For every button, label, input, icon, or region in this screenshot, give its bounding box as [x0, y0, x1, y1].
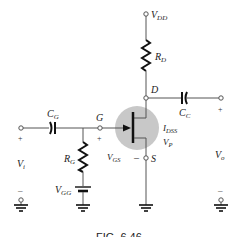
source-label: S: [151, 153, 156, 164]
vdd-terminal: [144, 12, 148, 16]
idss-label: IDSS: [162, 123, 178, 134]
vi-plus-terminal: [19, 126, 23, 130]
vgs-minus-sign: –: [133, 152, 140, 163]
ground-icon: [139, 205, 153, 211]
ground-icon: [214, 205, 228, 211]
vgs-label: VGS: [107, 152, 121, 163]
ground-icon: [76, 205, 90, 211]
vi-label: Vi: [17, 158, 25, 171]
vo-minus-sign: –: [217, 185, 223, 195]
vi-minus-sign: –: [17, 185, 23, 195]
drain-node: [144, 96, 148, 100]
cg-label: CG: [47, 108, 59, 121]
rd-label: RD: [154, 51, 166, 64]
vo-plus-terminal: [219, 96, 223, 100]
source-node: [144, 156, 148, 160]
cc-label: CC: [179, 107, 191, 120]
rg-label: RG: [63, 153, 75, 166]
vgg-label: VGG: [55, 184, 71, 197]
vo-plus-sign: +: [218, 105, 223, 114]
vp-label: VP: [163, 137, 173, 148]
figure-caption: FIG. 6.46: [96, 231, 142, 237]
circuit-diagram: VDD RD D CC + CG G + + IDSS VP RG VGS – …: [0, 0, 237, 237]
ground-icon: [14, 205, 28, 211]
gate-label: G: [96, 112, 103, 123]
vo-label: Vo: [215, 149, 225, 162]
gate-node: [98, 126, 102, 130]
cg-capacitor-plate-curved: [50, 122, 52, 134]
vdd-label: VDD: [151, 9, 167, 22]
vgs-plus-sign: +: [97, 134, 102, 143]
rd-resistor: [142, 40, 150, 71]
rg-resistor: [79, 142, 87, 172]
vi-plus-sign: +: [18, 134, 23, 143]
vi-minus-terminal: [19, 198, 23, 202]
vo-minus-terminal: [219, 198, 223, 202]
drain-label: D: [150, 84, 159, 95]
